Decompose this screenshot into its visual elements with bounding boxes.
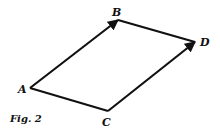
vector-cd: [108, 42, 195, 111]
segment-bd: [118, 20, 195, 42]
parallelogram-diagram: A B C D Fig. 2: [0, 0, 220, 134]
label-d: D: [199, 36, 210, 49]
figure-caption: Fig. 2: [9, 113, 42, 124]
label-b: B: [111, 6, 121, 19]
label-c: C: [102, 116, 111, 129]
label-a: A: [17, 83, 27, 96]
vector-ab: [30, 20, 118, 88]
segment-ac: [30, 88, 108, 111]
